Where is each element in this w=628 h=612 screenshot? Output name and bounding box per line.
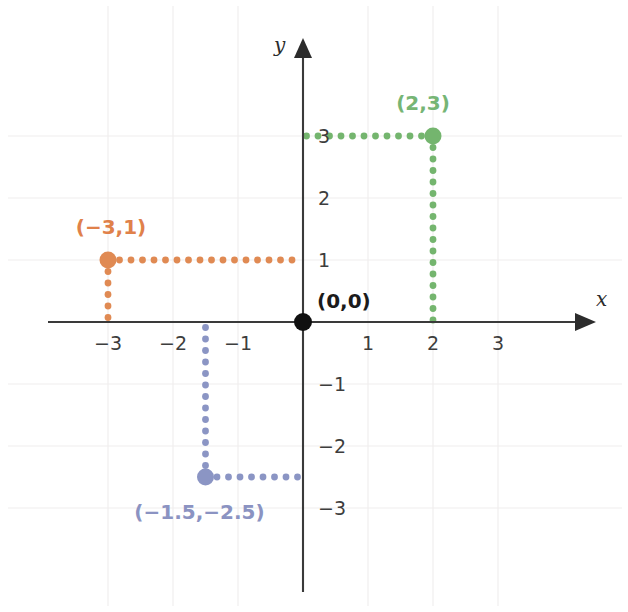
guide-dot — [248, 474, 255, 481]
y-tick-label-1: 1 — [318, 249, 330, 271]
guide-dot — [202, 393, 209, 400]
y-tick-label-neg3: −3 — [318, 497, 346, 519]
guide-vertical-blue-point — [202, 324, 209, 480]
guide-dot — [430, 282, 437, 289]
guide-dot — [283, 474, 290, 481]
guide-horizontal-blue-point — [202, 474, 301, 481]
guide-dot — [225, 474, 232, 481]
point-label-orange-point: (−3,1) — [76, 215, 146, 239]
gridlines-group — [8, 6, 622, 606]
guide-dot — [260, 474, 267, 481]
guide-dot — [162, 257, 169, 264]
guide-dot — [151, 257, 158, 264]
guide-dot — [202, 416, 209, 423]
dotted-guides-group — [105, 133, 437, 481]
guide-dot — [105, 303, 112, 310]
guide-dot — [430, 213, 437, 220]
guide-dot — [430, 236, 437, 243]
guide-dot — [174, 257, 181, 264]
guide-dot — [202, 439, 209, 446]
point-label-origin: (0,0) — [317, 289, 371, 313]
x-axis-arrowhead — [575, 313, 596, 331]
guide-dot — [202, 347, 209, 354]
guide-dot — [105, 314, 112, 321]
guide-dot — [271, 474, 278, 481]
guide-dot — [430, 294, 437, 301]
point-marker-orange-point[interactable] — [100, 252, 117, 269]
guide-dot — [185, 257, 192, 264]
guide-dot — [361, 133, 368, 140]
point-label-green-point: (2,3) — [396, 91, 450, 115]
guide-dot — [430, 259, 437, 266]
guide-dot — [277, 257, 284, 264]
point-marker-blue-point[interactable] — [197, 469, 214, 486]
guide-horizontal-orange-point — [105, 257, 296, 264]
x-tick-label-2: 2 — [427, 332, 439, 354]
y-tick-label-neg1: −1 — [318, 373, 346, 395]
y-tick-label-neg2: −2 — [318, 435, 346, 457]
guide-dot — [105, 280, 112, 287]
x-tick-label-neg1: −1 — [224, 332, 252, 354]
guide-dot — [430, 190, 437, 197]
guide-dot — [430, 305, 437, 312]
guide-dot — [266, 257, 273, 264]
guide-vertical-green-point — [430, 133, 437, 324]
guide-dot — [430, 202, 437, 209]
y-axis-arrowhead — [294, 38, 312, 58]
y-tick-label-2: 2 — [318, 187, 330, 209]
guide-dot — [372, 133, 379, 140]
guide-dot — [208, 257, 215, 264]
data-points-group — [100, 128, 442, 486]
x-tick-label-1: 1 — [362, 332, 374, 354]
guide-dot — [128, 257, 135, 264]
guide-dot — [303, 133, 310, 140]
guide-dot — [349, 133, 356, 140]
guide-dot — [202, 370, 209, 377]
guide-dot — [197, 257, 204, 264]
guide-dot — [202, 451, 209, 458]
guide-dot — [430, 179, 437, 186]
guide-dot — [430, 144, 437, 151]
guide-dot — [395, 133, 402, 140]
guide-dot — [202, 428, 209, 435]
coordinate-plane-svg: −3−2−1123321−1−2−3 (0,0)(2,3)(−3,1)(−1.5… — [0, 0, 628, 612]
guide-dot — [254, 257, 261, 264]
guide-dot — [214, 474, 221, 481]
coordinate-plane-figure: −3−2−1123321−1−2−3 (0,0)(2,3)(−3,1)(−1.5… — [0, 0, 628, 612]
guide-dot — [202, 324, 209, 331]
guide-dot — [338, 133, 345, 140]
point-labels-group: (0,0)(2,3)(−3,1)(−1.5,−2.5) — [76, 91, 450, 524]
guide-dot — [202, 336, 209, 343]
guide-dot — [220, 257, 227, 264]
guide-dot — [418, 133, 425, 140]
guide-dot — [202, 359, 209, 366]
y-tick-label-3: 3 — [318, 125, 330, 147]
guide-dot — [289, 257, 296, 264]
guide-dot — [237, 474, 244, 481]
guide-dot — [105, 268, 112, 275]
guide-dot — [430, 156, 437, 163]
guide-dot — [243, 257, 250, 264]
guide-dot — [384, 133, 391, 140]
guide-dot — [202, 405, 209, 412]
guide-dot — [231, 257, 238, 264]
x-tick-label-3: 3 — [492, 332, 504, 354]
guide-dot — [294, 474, 301, 481]
point-label-blue-point: (−1.5,−2.5) — [134, 500, 264, 524]
guide-dot — [139, 257, 146, 264]
guide-dot — [430, 248, 437, 255]
guide-dot — [116, 257, 123, 264]
x-tick-label-neg2: −2 — [159, 332, 187, 354]
x-tick-label-neg3: −3 — [94, 332, 122, 354]
guide-dot — [407, 133, 414, 140]
y-axis-label: y — [273, 33, 286, 57]
x-axis-label: x — [596, 287, 607, 311]
guide-dot — [202, 382, 209, 389]
point-marker-origin[interactable] — [294, 313, 312, 331]
point-marker-green-point[interactable] — [425, 128, 442, 145]
guide-dot — [430, 271, 437, 278]
guide-dot — [430, 167, 437, 174]
guide-dot — [105, 291, 112, 298]
guide-dot — [202, 462, 209, 469]
guide-dot — [430, 225, 437, 232]
